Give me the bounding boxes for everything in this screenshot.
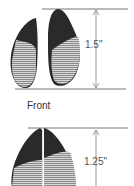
- caption-front: Front: [27, 100, 50, 111]
- hoof-toe-right: [48, 9, 80, 86]
- measurement-label-bottom: 1.25": [84, 156, 107, 167]
- hoof-toe-left: [11, 18, 38, 88]
- hoof-toe-left-2: [11, 128, 42, 186]
- measurement-label-top: 1.5": [85, 39, 102, 50]
- track-diagram: [0, 0, 134, 186]
- hoof-toe-right-2: [44, 128, 76, 186]
